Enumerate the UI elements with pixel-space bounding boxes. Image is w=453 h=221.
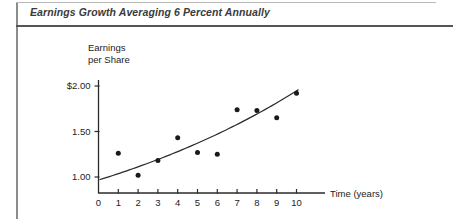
chart-svg <box>0 0 453 221</box>
y-axis-tick-label: 1.50 <box>72 126 91 137</box>
data-point <box>215 152 220 157</box>
data-point <box>274 115 279 120</box>
chart-plot-area: Earnings per Share Time (years) 1.001.50… <box>0 0 453 221</box>
data-point <box>136 173 141 178</box>
x-axis-tick-label: 9 <box>270 197 284 208</box>
data-point <box>175 135 180 140</box>
y-axis-tick-label: 1.00 <box>72 171 91 182</box>
x-axis-tick-label: 10 <box>290 197 304 208</box>
data-point <box>294 91 299 96</box>
data-point <box>254 108 259 113</box>
x-axis-tick-label: 3 <box>151 197 165 208</box>
x-axis-tick-label: 1 <box>111 197 125 208</box>
data-point <box>235 107 240 112</box>
y-axis-tick-label: $2.00 <box>67 80 91 91</box>
x-axis-tick-label: 4 <box>171 197 185 208</box>
x-axis-tick-label: 8 <box>250 197 264 208</box>
x-axis-tick-label: 2 <box>131 197 145 208</box>
trend-line <box>99 90 298 180</box>
figure-container: Earnings Growth Averaging 6 Percent Annu… <box>0 0 453 221</box>
x-axis-tick-label: 5 <box>191 197 205 208</box>
x-axis-tick-label: 7 <box>230 197 244 208</box>
data-point <box>116 151 121 156</box>
data-point <box>195 150 200 155</box>
data-point <box>155 158 160 163</box>
x-axis-tick-label: 6 <box>210 197 224 208</box>
x-axis-tick-label: 0 <box>92 197 106 208</box>
